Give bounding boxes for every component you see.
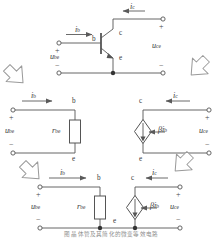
node-label-b-stage-2: b xyxy=(72,98,76,105)
node-label-c-stage-4: c xyxy=(131,175,134,182)
label-ic-stage-4: ic xyxy=(152,169,157,177)
polarity-minus-uce-stage-4: − xyxy=(176,216,181,224)
junction-dot-stage-1 xyxy=(111,71,115,75)
label-ib-stage-1: ib xyxy=(75,26,80,34)
label-rbe-stage-2: rbe xyxy=(52,127,60,135)
polarity-plus-uce-stage-1: + xyxy=(159,23,164,31)
node-label-c-stage-3: c xyxy=(139,98,142,105)
label-ube-stage-1: ube xyxy=(50,53,59,61)
label-beta-ib-stage-4: βib xyxy=(150,202,159,210)
stage-input-equivalent-circuit xyxy=(13,110,75,153)
resistor-rbe-stage-4 xyxy=(95,196,106,219)
flow-arrow-bottom-left xyxy=(16,155,47,186)
polarity-minus-uce-stage-3: − xyxy=(205,141,210,149)
resistor-rbe-stage-2 xyxy=(70,120,81,143)
terminals-stage-4 xyxy=(38,185,182,230)
label-uce-stage-1: uce xyxy=(152,42,161,50)
node-label-b-stage-4: b xyxy=(97,175,101,182)
label-uce-stage-3: uce xyxy=(199,127,208,135)
flow-arrow-bottom-right xyxy=(167,148,198,179)
polarity-plus-ube-stage-4: + xyxy=(36,191,41,199)
polarity-plus-uce-stage-3: + xyxy=(205,114,210,122)
flow-arrow-top-left xyxy=(0,59,31,90)
node-label-e-stage-1: e xyxy=(119,55,122,62)
label-ube-stage-2: ube xyxy=(5,127,14,135)
node-label-b-stage-1: b xyxy=(92,36,96,43)
node-label-e-stage-3: e xyxy=(139,156,142,163)
label-ube-stage-4: ube xyxy=(31,203,40,211)
node-label-c-stage-1: c xyxy=(119,30,122,37)
polarity-minus-ube-stage-1: − xyxy=(55,62,60,70)
node-label-e-stage-2: e xyxy=(72,156,75,163)
label-uce-stage-4: uce xyxy=(170,203,179,211)
label-rbe-stage-4: rbe xyxy=(77,203,85,211)
label-ic-stage-3: ic xyxy=(173,92,178,100)
polarity-minus-uce-stage-1: − xyxy=(159,62,164,70)
polarity-minus-ube-stage-2: − xyxy=(9,141,14,149)
label-ib-stage-2: ib xyxy=(31,92,36,100)
polarity-plus-uce-stage-4: + xyxy=(176,191,181,199)
figure-canvas: ib ic b c e + − ube + − uce ib b e + − u… xyxy=(0,0,222,239)
figure-caption: 图 晶体管及其简化的微变等效电路 xyxy=(0,230,222,239)
label-ib-stage-4: ib xyxy=(60,169,65,177)
node-label-e-stage-4: e xyxy=(113,218,116,225)
flow-arrow-top-right xyxy=(183,52,214,83)
label-ic-stage-1: ic xyxy=(130,3,135,11)
polarity-minus-ube-stage-4: − xyxy=(36,216,41,224)
polarity-plus-ube-stage-2: + xyxy=(9,114,14,122)
terminals-stage-1 xyxy=(57,17,165,75)
label-beta-ib-stage-3: βib xyxy=(158,126,167,134)
